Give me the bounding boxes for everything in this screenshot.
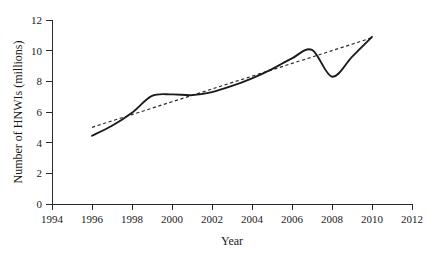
x-tick-label: 1994: [41, 213, 64, 225]
x-tick-label: 2008: [321, 213, 344, 225]
y-tick-label: 2: [37, 167, 43, 179]
x-axis-ticks: 1994199619982000200220042006200820102012: [41, 204, 423, 225]
x-tick-label: 2002: [201, 213, 223, 225]
x-tick-label: 1996: [81, 213, 104, 225]
y-axis-title: Number of HNWIs (millions): [11, 41, 25, 184]
y-tick-label: 6: [37, 106, 43, 118]
y-tick-label: 0: [37, 198, 43, 210]
chart-figure: 024681012 199419961998200020022004200620…: [0, 0, 440, 256]
trend-line-dashed: [92, 38, 372, 128]
line-chart-canvas: 024681012 199419961998200020022004200620…: [0, 0, 440, 256]
y-tick-label: 12: [31, 14, 42, 26]
y-tick-label: 8: [37, 75, 43, 87]
x-axis-title: Year: [221, 234, 243, 248]
y-axis-ticks: 024681012: [31, 14, 52, 210]
x-tick-label: 2012: [401, 213, 423, 225]
y-tick-label: 4: [37, 137, 43, 149]
x-tick-label: 2010: [361, 213, 384, 225]
x-tick-label: 1998: [121, 213, 144, 225]
y-tick-label: 10: [31, 45, 43, 57]
x-tick-label: 2004: [241, 213, 264, 225]
axis-lines: [52, 20, 412, 204]
x-tick-label: 2000: [161, 213, 184, 225]
x-tick-label: 2006: [281, 213, 304, 225]
